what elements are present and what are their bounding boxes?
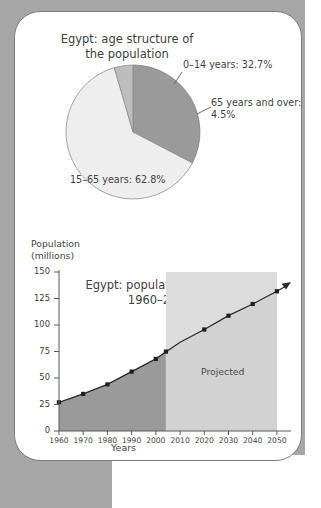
y-tick-label-25: 25 xyxy=(28,399,50,409)
pie-label-old-line-2: 4.5% xyxy=(211,109,235,120)
outer-white-bottom-right xyxy=(112,455,321,508)
data-point-1980 xyxy=(105,382,109,386)
historic-area xyxy=(59,352,166,431)
x-tick-label-1960: 1960 xyxy=(46,436,72,445)
line-chart-graphic xyxy=(15,230,302,445)
x-tick-label-1970: 1970 xyxy=(70,436,96,445)
line-chart-panel: Population (millions) Egypt: population … xyxy=(15,230,302,461)
y-tick-label-125: 125 xyxy=(28,293,50,303)
y-tick-label-150: 150 xyxy=(28,266,50,276)
pie-chart-graphic xyxy=(65,62,205,212)
pie-label-old: 65 years and over: 4.5% xyxy=(211,97,302,121)
y-tick-label-50: 50 xyxy=(28,372,50,382)
x-tick-label-2040: 2040 xyxy=(240,436,266,445)
x-tick-label-2030: 2030 xyxy=(216,436,242,445)
outer-white-right xyxy=(305,0,321,508)
y-tick-label-0: 0 xyxy=(28,425,50,435)
data-point-2040 xyxy=(251,302,255,306)
data-point-2050 xyxy=(275,289,279,293)
x-tick-label-2000: 2000 xyxy=(143,436,169,445)
x-tick-label-2020: 2020 xyxy=(191,436,217,445)
x-axis-title: Years xyxy=(111,442,136,453)
pie-label-old-line-1: 65 years and over: xyxy=(211,97,301,108)
x-tick-label-2010: 2010 xyxy=(167,436,193,445)
y-tick-label-75: 75 xyxy=(28,346,50,356)
data-point-2030 xyxy=(226,314,230,318)
pie-label-young: 0–14 years: 32.7% xyxy=(183,59,272,71)
pie-label-working: 15–65 years: 62.8% xyxy=(70,174,165,186)
projected-annotation: Projected xyxy=(201,366,244,377)
y-tick-label-100: 100 xyxy=(28,319,50,329)
data-point-2020 xyxy=(202,327,206,331)
pie-title-line-1: Egypt: age structure of xyxy=(61,32,194,46)
x-tick-label-2050: 2050 xyxy=(264,436,290,445)
pie-chart-panel: Egypt: age structure of the population 0… xyxy=(15,12,302,232)
data-point-1970 xyxy=(81,392,85,396)
data-point-2010 xyxy=(164,350,168,354)
pie-chart-title: Egypt: age structure of the population xyxy=(37,32,217,62)
data-point-1990 xyxy=(130,370,134,374)
figure-card: Egypt: age structure of the population 0… xyxy=(14,11,302,461)
data-point-2000 xyxy=(154,357,158,361)
pie-title-line-2: the population xyxy=(85,47,169,61)
